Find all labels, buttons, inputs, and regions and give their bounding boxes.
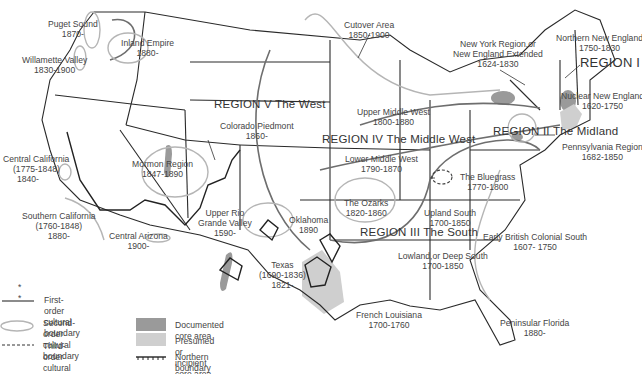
area-upper-rio-grande: Upper RioGrande Valley1590-: [198, 208, 252, 238]
region-i-label: REGION I New England: [580, 55, 642, 71]
area-early-british-colonial-south: Early British Colonial South1607- 1750: [483, 232, 587, 252]
area-inland-empire: Inland Empire1880-: [121, 38, 174, 58]
legend-hispanic-boundary: Northern boundary ot significantHispanic…: [175, 352, 215, 374]
area-ozarks: The Ozarks1820-1860: [344, 198, 388, 218]
area-bluegrass: The Bluegrass1770-1800: [460, 172, 515, 192]
area-peninsular-florida: Peninsular Florida1880-: [500, 318, 569, 338]
region-ii-label: REGION II The Midland: [493, 125, 618, 138]
area-deep-south: Lowland,or Deep South1700-1850: [398, 251, 488, 271]
area-cutover: Cutover Area1850-1900: [344, 20, 394, 40]
area-central-arizona: Central Arizona1900-: [109, 231, 168, 251]
area-willamette-valley: Willamette Valley1830-1900: [22, 55, 87, 75]
legend-third-order: Third-order culturalboundary: [43, 341, 79, 374]
region-i-number: REGION I: [580, 55, 640, 70]
legend-asterisks: * *: [18, 282, 21, 304]
region-iv-label: REGION IV The Middle West: [322, 133, 475, 146]
area-lower-middle-west: Lower Middle West1790-1870: [345, 154, 418, 174]
area-texas: Texas(1690-1836)1821-: [259, 260, 306, 290]
area-mormon-region: Mormon Region1847-1890: [132, 159, 193, 179]
area-upper-middle-west: Upper Middle West1800-1880: [357, 107, 430, 127]
area-central-california: Central California(1775-1848)1840-: [3, 154, 69, 184]
area-puget-sound: Puget Sound1870-: [48, 19, 98, 39]
area-nuclear-new-england: Nuclear New England1620-1750: [561, 91, 642, 111]
area-pennsylvania-region: Pennsylvania Region1682-1850: [562, 142, 642, 162]
area-new-york-region: New York Region,orNew England Extended16…: [453, 39, 543, 69]
legend-symbols: [1, 301, 166, 360]
area-southern-california: Southern California(1760-1848)1880-: [22, 211, 96, 241]
area-upland-south: Upland South1700-1850: [424, 208, 476, 228]
third-order-boundary-bluegrass: [432, 170, 452, 184]
area-oklahoma: Oklahoma1890: [289, 215, 328, 235]
area-colorado-piedmont: Colorado Piedmont1860-: [220, 121, 294, 141]
region-v-label: REGION V The West: [214, 98, 326, 111]
area-french-louisiana: French Louisiana1700-1760: [356, 310, 422, 330]
area-northern-new-england: Northern New England1750-1830: [556, 33, 642, 53]
